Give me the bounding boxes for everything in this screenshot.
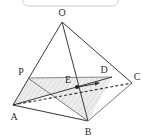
- vertex-label-A: A: [10, 112, 17, 122]
- geometry-figure: O P A B C D E: [0, 0, 143, 139]
- vertex-label-E: E: [65, 75, 71, 85]
- vertex-label-O: O: [58, 8, 65, 18]
- edge-O-C: [62, 22, 132, 83]
- vertex-label-D: D: [100, 65, 107, 75]
- top-rounded-bar: [23, 0, 119, 6]
- point-marker-E: [75, 85, 79, 89]
- vertex-label-P: P: [18, 67, 24, 77]
- vertex-label-C: C: [134, 72, 141, 82]
- vertex-label-B: B: [85, 127, 92, 137]
